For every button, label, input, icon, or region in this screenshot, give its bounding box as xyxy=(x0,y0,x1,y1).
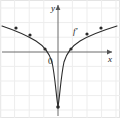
function-graph-svg: x y 0 f' xyxy=(0,0,120,118)
data-point xyxy=(28,33,31,36)
data-point xyxy=(14,26,17,29)
y-axis-label: y xyxy=(50,3,55,13)
graph-figure: x y 0 f' xyxy=(0,0,120,118)
data-point xyxy=(85,32,88,35)
data-point xyxy=(69,47,72,50)
data-point xyxy=(99,26,102,29)
x-axis-label: x xyxy=(107,54,112,64)
data-point-minimum xyxy=(56,105,60,109)
data-point xyxy=(43,47,46,50)
